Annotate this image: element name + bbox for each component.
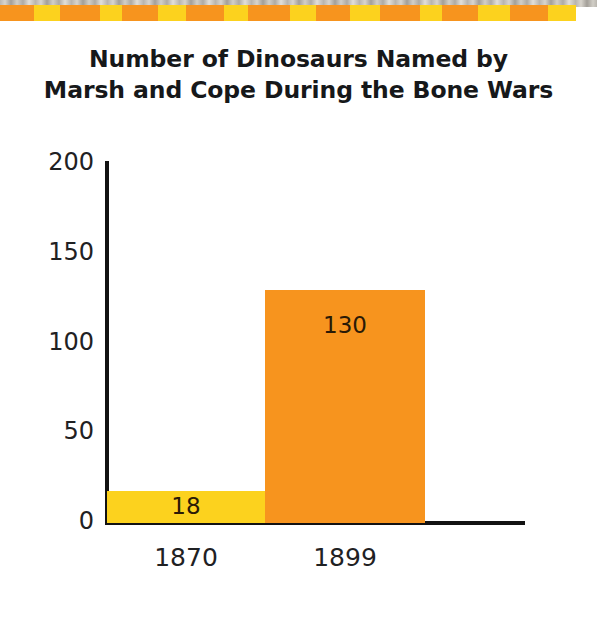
bar-1899[interactable]: 130 xyxy=(265,161,425,523)
bar-value-label: 18 xyxy=(107,495,265,518)
bar-chart-plot-area: 050100150200 18130 18701899 xyxy=(0,0,597,634)
y-axis-tick-label: 200 xyxy=(16,150,94,174)
y-axis-tick-label: 150 xyxy=(16,240,94,264)
bar-1870[interactable]: 18 xyxy=(107,161,265,523)
bars-layer: 18130 xyxy=(107,161,525,523)
y-axis-tick-labels: 050100150200 xyxy=(14,0,94,634)
bar-value-label: 130 xyxy=(265,314,425,337)
y-axis-tick-label: 50 xyxy=(16,419,94,443)
y-axis-tick-label: 100 xyxy=(16,330,94,354)
x-axis-tick-label: 1870 xyxy=(107,545,265,570)
y-axis-tick-label: 0 xyxy=(16,509,94,533)
x-axis-tick-label: 1899 xyxy=(265,545,425,570)
